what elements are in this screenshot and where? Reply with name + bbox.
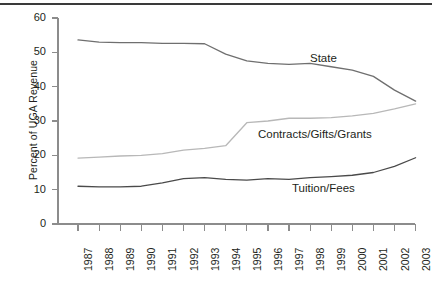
x-tick-label: 2003	[421, 248, 432, 271]
x-tick-label: 1989	[125, 248, 136, 271]
plot-area	[0, 0, 432, 282]
x-tick-label: 1992	[189, 248, 200, 271]
y-tick-label: 40	[16, 81, 46, 92]
series-annotation: Contracts/Gifts/Grants	[258, 128, 372, 140]
x-tick-label: 1993	[210, 248, 221, 271]
series-annotation: Tuition/Fees	[292, 182, 355, 194]
y-tick-label: 0	[16, 218, 46, 229]
axis-lines	[52, 18, 416, 231]
series-line	[78, 40, 416, 101]
x-tick-label: 1999	[336, 248, 347, 271]
x-tick-label: 1995	[252, 248, 263, 271]
x-tick-label: 2001	[378, 248, 389, 271]
y-tick-label: 30	[16, 115, 46, 126]
y-tick-label: 20	[16, 149, 46, 160]
x-tick-label: 2000	[357, 248, 368, 271]
x-tick-label: 1998	[315, 248, 326, 271]
y-tick-label: 60	[16, 12, 46, 23]
x-tick-label: 1990	[146, 248, 157, 271]
x-tick-label: 2002	[400, 248, 411, 271]
chart-figure: Percent of UGA Revenue 6050403020100 198…	[0, 0, 432, 282]
series-annotation: State	[310, 52, 337, 64]
x-tick-label: 1987	[83, 248, 94, 271]
y-tick-label: 50	[16, 46, 46, 57]
series-line	[78, 158, 416, 187]
x-tick-label: 1988	[104, 248, 115, 271]
x-tick-label: 1994	[231, 248, 242, 271]
series-lines	[78, 40, 416, 187]
x-tick-label: 1991	[167, 248, 178, 271]
x-tick-label: 1996	[273, 248, 284, 271]
y-tick-label: 10	[16, 184, 46, 195]
x-tick-label: 1997	[294, 248, 305, 271]
